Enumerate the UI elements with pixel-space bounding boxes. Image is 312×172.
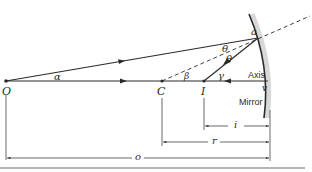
label-C: C — [157, 86, 165, 97]
axis-arrow-left — [224, 79, 231, 84]
label-i: i — [234, 120, 237, 130]
point-O — [4, 79, 8, 83]
point-I — [202, 79, 205, 82]
label-gamma: γ — [218, 71, 224, 81]
label-o: o — [135, 152, 141, 162]
label-O: O — [2, 86, 11, 97]
label-r: r — [212, 136, 217, 146]
label-mirror: Mirror — [239, 98, 263, 107]
label-theta-reflected: θ — [226, 54, 232, 64]
axis-arrow-right — [120, 79, 127, 84]
label-alpha: α — [54, 72, 61, 82]
label-a: a — [251, 27, 257, 37]
label-I: I — [201, 86, 205, 97]
label-v: v — [262, 84, 267, 93]
label-beta: β — [184, 72, 189, 81]
label-axis: Axis — [248, 71, 265, 80]
incident-ray-arrow — [118, 59, 125, 64]
point-C — [160, 79, 163, 82]
